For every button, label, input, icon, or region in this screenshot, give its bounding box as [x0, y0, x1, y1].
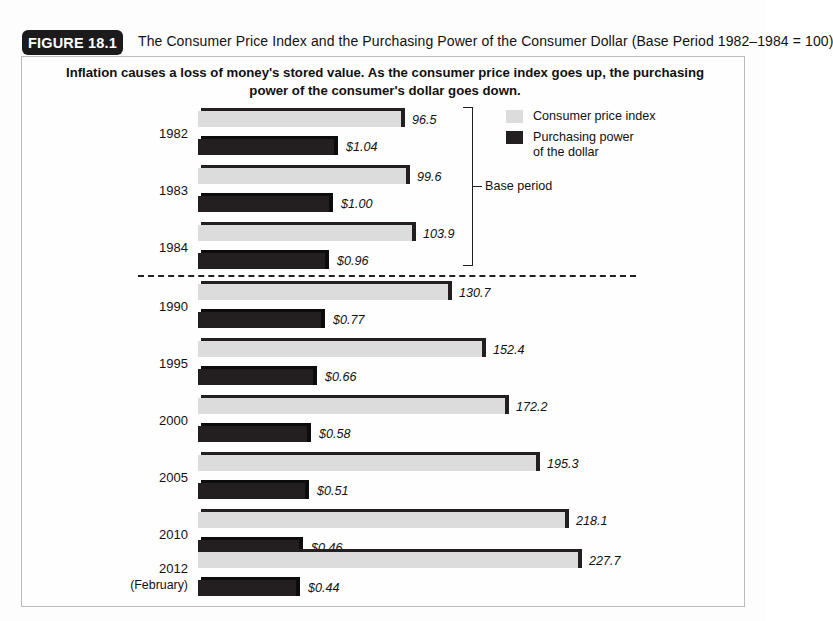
- legend-item-purchasing-power: Purchasing power of the dollar: [506, 130, 706, 160]
- chart-legend: Consumer price index Purchasing power of…: [506, 109, 706, 166]
- base-period-label: Base period: [485, 179, 552, 193]
- legend-swatch-cpi-icon: [506, 110, 523, 123]
- period-separator-dashed-line: [138, 275, 636, 277]
- figure-title: The Consumer Price Index and the Purchas…: [138, 33, 833, 49]
- legend-item-consumer-price-index: Consumer price index: [506, 109, 706, 124]
- legend-label-purchasing-power-line2: of the dollar: [533, 145, 706, 160]
- legend-swatch-purchasing-power-icon: [506, 131, 523, 144]
- legend-label-cpi: Consumer price index: [533, 109, 706, 124]
- base-period-bracket: [463, 107, 473, 266]
- figure-number-badge: FIGURE 18.1: [22, 30, 123, 55]
- base-period-bracket-tick: [473, 186, 482, 187]
- legend-label-purchasing-power-line1: Purchasing power: [533, 130, 706, 145]
- figure-subtitle: Inflation causes a loss of money's store…: [60, 64, 710, 100]
